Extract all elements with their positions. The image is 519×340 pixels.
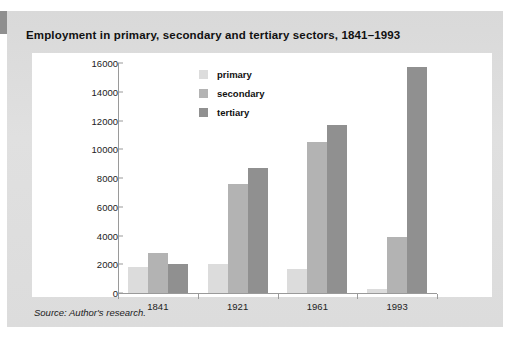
y-axis-tick-mark bbox=[118, 120, 123, 121]
x-axis-tick-mark bbox=[198, 294, 199, 299]
y-axis-tick-mark bbox=[118, 264, 123, 265]
legend-label-secondary: secondary bbox=[217, 88, 265, 99]
legend-swatch-secondary bbox=[199, 89, 208, 98]
chart-legend: primarysecondarytertiary bbox=[199, 65, 319, 122]
bar-secondary-1921 bbox=[228, 184, 248, 293]
y-axis-tick-label: 0 bbox=[72, 288, 118, 299]
y-axis-tick-label: 8000 bbox=[72, 173, 118, 184]
bar-primary-1993 bbox=[367, 289, 387, 293]
y-axis-tick-label: 4000 bbox=[72, 230, 118, 241]
y-axis-tick-label: 14000 bbox=[72, 86, 118, 97]
legend-swatch-primary bbox=[199, 70, 208, 79]
bar-tertiary-1961 bbox=[327, 125, 347, 293]
bar-secondary-1961 bbox=[307, 142, 327, 293]
x-axis-tick-mark bbox=[278, 294, 279, 299]
legend-item-primary: primary bbox=[199, 65, 319, 84]
legend-swatch-tertiary bbox=[199, 108, 208, 117]
x-axis-tick-mark bbox=[357, 294, 358, 299]
legend-item-secondary: secondary bbox=[199, 84, 319, 103]
bar-tertiary-1841 bbox=[168, 264, 188, 293]
y-axis-tick-mark bbox=[118, 206, 123, 207]
bar-primary-1841 bbox=[128, 267, 148, 293]
x-axis-tick-label: 1841 bbox=[147, 301, 168, 312]
y-axis-tick-mark bbox=[118, 91, 123, 92]
bar-primary-1921 bbox=[208, 264, 228, 293]
legend-label-tertiary: tertiary bbox=[217, 107, 249, 118]
x-axis-tick-label: 1961 bbox=[307, 301, 328, 312]
y-axis-tick-label: 10000 bbox=[72, 144, 118, 155]
x-axis-tick-label: 1993 bbox=[387, 301, 408, 312]
figure-root: Employment in primary, secondary and ter… bbox=[0, 0, 519, 340]
legend-label-primary: primary bbox=[217, 69, 252, 80]
y-axis-tick-label: 16000 bbox=[72, 58, 118, 69]
chart-card: 0200040006000800010000120001400016000184… bbox=[32, 53, 492, 297]
bar-tertiary-1993 bbox=[407, 67, 427, 293]
y-axis-tick-label: 2000 bbox=[72, 259, 118, 270]
figure-panel: Employment in primary, secondary and ter… bbox=[7, 11, 503, 327]
bar-secondary-1993 bbox=[387, 237, 407, 293]
x-axis-tick-mark bbox=[118, 294, 119, 299]
y-axis-tick-mark bbox=[118, 178, 123, 179]
bar-chart-plot: 0200040006000800010000120001400016000184… bbox=[32, 53, 492, 297]
x-axis-tick-mark bbox=[437, 294, 438, 299]
x-axis-tick-label: 1921 bbox=[227, 301, 248, 312]
legend-item-tertiary: tertiary bbox=[199, 103, 319, 122]
source-note: Source: Author's research. bbox=[34, 307, 146, 318]
y-axis-tick-label: 6000 bbox=[72, 201, 118, 212]
y-axis-tick-mark bbox=[118, 235, 123, 236]
y-axis-tick-mark bbox=[118, 149, 123, 150]
bar-primary-1961 bbox=[287, 269, 307, 293]
page-title: Employment in primary, secondary and ter… bbox=[26, 29, 466, 46]
bar-secondary-1841 bbox=[148, 253, 168, 293]
y-axis-tick-label: 12000 bbox=[72, 115, 118, 126]
y-axis-tick-mark bbox=[118, 63, 123, 64]
bar-tertiary-1921 bbox=[248, 168, 268, 293]
